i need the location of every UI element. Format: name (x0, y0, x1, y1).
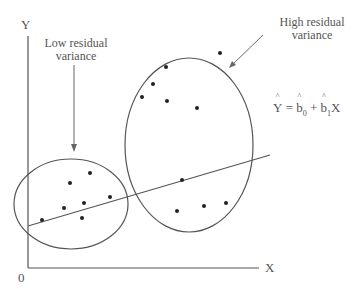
low-variance-points (40, 171, 112, 222)
high-variance-arrow (231, 35, 263, 66)
regression-equation: Y = b0 + b1X (273, 100, 340, 118)
low-variance-ellipse (14, 159, 128, 249)
eq-b0: b (296, 100, 303, 116)
eq-b1: b (321, 100, 328, 116)
eq-equals: = (282, 100, 296, 115)
origin-label: 0 (18, 271, 25, 284)
x-axis-label: X (265, 261, 274, 274)
eq-plus: + (307, 100, 321, 115)
high-variance-label: High residual variance (272, 16, 352, 42)
y-axis-label: Y (21, 18, 30, 31)
low-label-line2: variance (40, 50, 112, 63)
high-variance-ellipse (125, 58, 253, 232)
regression-line (28, 155, 270, 226)
low-arrow-head-icon (71, 144, 77, 152)
low-variance-label: Low residual variance (40, 37, 112, 63)
eq-y-hat: Y (273, 100, 282, 116)
high-label-line2: variance (272, 29, 352, 42)
eq-x: X (331, 100, 340, 115)
